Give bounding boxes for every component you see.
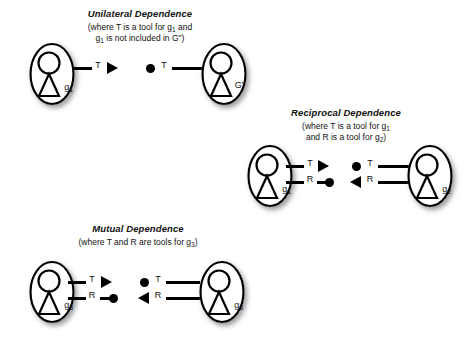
diagram-reciprocal-dependence: Reciprocal Dependence (where T is a tool… [228, 100, 464, 215]
subscript: 1 [386, 125, 390, 132]
actor-right[interactable]: g3 [198, 260, 246, 324]
edge-label-right: T [159, 60, 169, 70]
link-line-left [286, 181, 304, 184]
actor-label: G" [235, 80, 245, 90]
link-line-left [68, 281, 86, 284]
diagram-title: Mutual Dependence [58, 223, 218, 234]
subscript: 3 [69, 304, 73, 311]
link-row: T T [286, 160, 410, 172]
arrow-left-icon [350, 176, 361, 188]
diagram-subtitle: (where T is a tool for g1 and R is a too… [256, 121, 436, 143]
edge-label-right: T [365, 158, 375, 168]
diagram-title: Reciprocal Dependence [266, 107, 426, 118]
diagram-subtitle: (where T is a tool for g1 and g1 is not … [45, 22, 235, 44]
subtitle-line-1: (where T and R are tools for g3) [78, 237, 197, 247]
arrow-right-icon [101, 276, 112, 288]
subscript: 1 [287, 188, 291, 195]
edge-label-right: R [365, 174, 375, 184]
subtitle-line-1: (where T is a tool for g1 and [88, 22, 192, 32]
edge-label-left: R [87, 290, 97, 300]
link-line-left [286, 165, 304, 168]
link-line-right [166, 281, 200, 284]
dot-icon [325, 178, 334, 187]
diagram-subtitle: (where T and R are tools for g3) [38, 237, 238, 248]
edge-label-left: T [305, 158, 315, 168]
diagram-title: Unilateral Dependence [60, 8, 220, 19]
link-line-left [68, 297, 86, 300]
actor-glyph [406, 144, 454, 208]
arrow-left-icon [138, 292, 149, 304]
diagram-canvas: Unilateral Dependence (where T is a tool… [0, 0, 464, 342]
link-row: R R [286, 176, 410, 188]
actor-right[interactable]: G" [200, 42, 248, 106]
link-row: T T [68, 276, 200, 288]
subtitle-line-2: and R is a tool for g2) [306, 132, 386, 142]
actor-label: g2 [442, 184, 451, 194]
subscript: 3 [239, 304, 243, 311]
subtitle-line-2: g1 is not included in G") [96, 33, 185, 43]
arrow-right-icon [318, 160, 329, 172]
edge-label-right: R [153, 290, 163, 300]
actor-glyph [198, 260, 246, 324]
diagram-unilateral-dependence: Unilateral Dependence (where T is a tool… [0, 0, 280, 110]
dot-icon [140, 278, 149, 287]
subscript: 1 [100, 37, 104, 44]
subscript: 1 [172, 26, 176, 33]
edge-label-left: R [305, 174, 315, 184]
link-row: T T [72, 62, 208, 74]
actor-right[interactable]: g2 [406, 144, 454, 208]
edge-label-left: T [93, 60, 103, 70]
diagram-mutual-dependence: Mutual Dependence (where T and R are too… [0, 216, 260, 342]
dot-icon [352, 162, 361, 171]
dot-icon [146, 64, 155, 73]
actor-label: g1 [64, 82, 73, 92]
actor-glyph [28, 42, 76, 106]
subtitle-line-1: (where T is a tool for g1 [302, 121, 390, 131]
edge-label-left: T [87, 274, 97, 284]
arrow-right-icon [107, 62, 118, 74]
subscript: 2 [447, 188, 451, 195]
link-row: R R [68, 292, 200, 304]
edge-label-right: T [153, 274, 163, 284]
link-line-right [166, 297, 200, 300]
actor-label: g3 [234, 300, 243, 310]
actor-glyph [200, 42, 248, 106]
subscript: 2 [380, 136, 384, 143]
dot-icon [109, 294, 118, 303]
subscript: 3 [191, 241, 195, 248]
subscript: 1 [69, 86, 73, 93]
link-line-left [72, 67, 92, 70]
actor-left[interactable]: g1 [28, 42, 76, 106]
